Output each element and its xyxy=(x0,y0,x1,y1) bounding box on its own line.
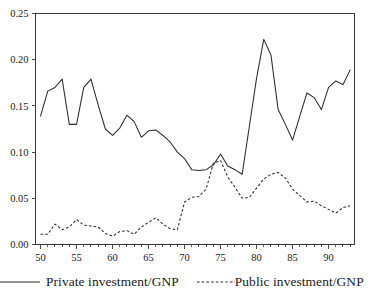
dotted-line-swatch-icon xyxy=(197,276,235,287)
y-axis-tick-label: 0.10 xyxy=(10,147,28,158)
x-axis-tick-labels: 505560657075808590 xyxy=(35,252,334,263)
y-axis-tick-label: 0.20 xyxy=(10,54,28,65)
x-axis-tick-label: 50 xyxy=(35,252,46,263)
series-line-public-investment xyxy=(41,160,351,236)
chart-legend: Private investment/GNP Public investment… xyxy=(0,272,372,291)
y-axis-tick-label: 0.00 xyxy=(10,239,28,250)
legend-label-public: Public investment/GNP xyxy=(235,274,364,290)
legend-label-private: Private investment/GNP xyxy=(46,274,179,290)
x-axis-ticks xyxy=(41,245,351,250)
y-axis-tick-label: 0.25 xyxy=(10,8,28,19)
x-axis-tick-label: 60 xyxy=(107,252,118,263)
x-axis-tick-label: 90 xyxy=(323,252,334,263)
y-axis-tick-label: 0.15 xyxy=(10,101,28,112)
x-axis-tick-label: 75 xyxy=(215,252,226,263)
y-axis-tick-labels: 0.000.050.100.150.200.25 xyxy=(10,8,28,250)
y-axis-ticks xyxy=(32,14,36,245)
x-axis-tick-label: 70 xyxy=(179,252,190,263)
y-axis-tick-label: 0.05 xyxy=(10,193,28,204)
investment-ratio-chart-figure: 0.000.050.100.150.200.25 505560657075808… xyxy=(0,0,372,291)
x-axis-tick-label: 55 xyxy=(71,252,82,263)
x-axis-tick-label: 65 xyxy=(143,252,154,263)
x-axis-tick-label: 85 xyxy=(287,252,298,263)
x-axis-tick-label: 80 xyxy=(251,252,262,263)
solid-line-swatch-icon xyxy=(0,276,40,287)
series-line-private-investment xyxy=(41,39,351,174)
legend-entry-private: Private investment/GNP xyxy=(0,274,179,290)
line-chart-plot-area: 0.000.050.100.150.200.25 505560657075808… xyxy=(0,0,372,272)
legend-entry-public: Public investment/GNP xyxy=(197,274,364,290)
plot-frame xyxy=(36,14,355,245)
